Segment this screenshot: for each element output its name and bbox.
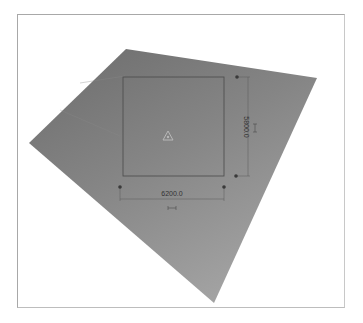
scene-canvas[interactable]: 6200.0 5800.0 bbox=[0, 0, 363, 323]
vertical-dimension-value: 5800.0 bbox=[243, 116, 250, 138]
grip-handle[interactable] bbox=[222, 185, 226, 189]
grip-handle[interactable] bbox=[118, 185, 122, 189]
grip-handle[interactable] bbox=[235, 75, 239, 79]
grip-handle[interactable] bbox=[234, 174, 238, 178]
horizontal-dimension-value: 6200.0 bbox=[161, 190, 183, 197]
